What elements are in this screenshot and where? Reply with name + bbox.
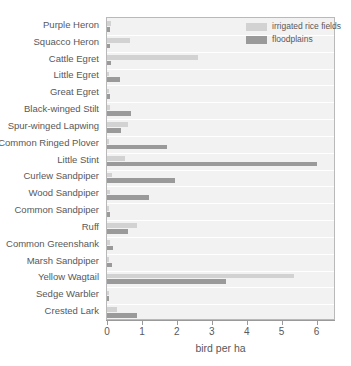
bar-irrigated-rice-fields-curlew-sandpiper: [107, 173, 112, 178]
legend-swatch-icon: [246, 36, 267, 44]
y-axis-label: Great Egret: [50, 87, 99, 97]
x-axis-tick: [212, 320, 213, 325]
bar-floodplains-great-egret: [107, 94, 110, 99]
bar-irrigated-rice-fields-purple-heron: [107, 21, 111, 26]
bar-irrigated-rice-fields-common-greenshank: [107, 240, 110, 245]
legend-label: irrigated rice fields: [272, 21, 341, 32]
x-axis-tick: [107, 320, 108, 325]
y-axis-label: Marsh Sandpiper: [27, 256, 99, 266]
x-axis-line: [106, 320, 335, 321]
bar-irrigated-rice-fields-yellow-wagtail: [107, 274, 294, 279]
x-axis-tick: [317, 320, 318, 325]
bar-floodplains-yellow-wagtail: [107, 279, 226, 284]
bar-irrigated-rice-fields-little-stint: [107, 156, 125, 161]
y-axis-label: Ruff: [82, 222, 99, 232]
plot-area: [106, 17, 335, 320]
x-axis-tick-label: 3: [209, 326, 215, 337]
bar-floodplains-marsh-sandpiper: [107, 263, 112, 268]
bar-irrigated-rice-fields-little-egret: [107, 72, 109, 77]
bar-irrigated-rice-fields-spur-winged-lapwing: [107, 122, 128, 127]
y-axis-label: Cattle Egret: [49, 54, 99, 64]
legend: irrigated rice fields floodplains: [246, 21, 341, 47]
y-axis-label: Purple Heron: [43, 20, 99, 30]
y-axis-label: Sedge Warbler: [36, 289, 99, 299]
bar-irrigated-rice-fields-cattle-egret: [107, 55, 198, 60]
bird-density-bar-chart: Purple HeronSquacco HeronCattle EgretLit…: [0, 0, 351, 366]
bar-floodplains-purple-heron: [107, 27, 110, 32]
y-axis-label: Crested Lark: [45, 306, 99, 316]
bar-irrigated-rice-fields-sedge-warbler: [107, 291, 109, 296]
bar-irrigated-rice-fields-squacco-heron: [107, 38, 130, 43]
y-axis-label: Little Egret: [54, 70, 99, 80]
legend-label: floodplains: [272, 34, 313, 45]
bar-floodplains-common-ringed-plover: [107, 145, 167, 150]
legend-item-floodplains: floodplains: [246, 34, 341, 45]
bar-floodplains-squacco-heron: [107, 44, 110, 49]
legend-item-irrigated-rice-fields: irrigated rice fields: [246, 21, 341, 32]
x-axis-tick: [247, 320, 248, 325]
bar-floodplains-black-winged-stilt: [107, 111, 131, 116]
bar-irrigated-rice-fields-wood-sandpiper: [107, 190, 110, 195]
bar-floodplains-wood-sandpiper: [107, 195, 149, 200]
bars-layer: [107, 18, 334, 319]
x-axis-tick-label: 5: [279, 326, 285, 337]
bar-floodplains-spur-winged-lapwing: [107, 128, 121, 133]
x-axis-tick-label: 0: [104, 326, 110, 337]
bar-irrigated-rice-fields-common-sandpiper: [107, 206, 109, 211]
y-axis-category-labels: Purple HeronSquacco HeronCattle EgretLit…: [0, 17, 103, 320]
bar-floodplains-curlew-sandpiper: [107, 178, 175, 183]
bar-floodplains-ruff: [107, 229, 128, 234]
x-axis-tick: [177, 320, 178, 325]
x-axis-tick-label: 6: [314, 326, 320, 337]
bar-floodplains-common-greenshank: [107, 246, 113, 251]
y-axis-label: Wood Sandpiper: [28, 188, 99, 198]
y-axis-label: Curlew Sandpiper: [23, 171, 99, 181]
y-axis-label: Spur-winged Lapwing: [8, 121, 99, 131]
x-axis-tick-label: 2: [174, 326, 180, 337]
legend-swatch-icon: [246, 23, 267, 31]
bar-floodplains-sedge-warbler: [107, 296, 109, 301]
y-axis-label: Little Stint: [57, 155, 99, 165]
y-axis-label: Common Sandpiper: [15, 205, 100, 215]
bar-floodplains-crested-lark: [107, 313, 137, 318]
bar-irrigated-rice-fields-marsh-sandpiper: [107, 257, 109, 262]
bar-irrigated-rice-fields-common-ringed-plover: [107, 139, 109, 144]
bar-irrigated-rice-fields-ruff: [107, 223, 137, 228]
bar-floodplains-little-egret: [107, 77, 120, 82]
y-axis-label: Squacco Heron: [34, 37, 99, 47]
bar-irrigated-rice-fields-black-winged-stilt: [107, 105, 110, 110]
x-axis-tick: [142, 320, 143, 325]
bar-irrigated-rice-fields-great-egret: [107, 89, 109, 94]
y-axis-label: Yellow Wagtail: [38, 272, 99, 282]
y-axis-label: Common Ringed Plover: [0, 138, 99, 148]
x-axis-title: bird per ha: [106, 342, 335, 354]
x-axis-tick: [282, 320, 283, 325]
bar-floodplains-cattle-egret: [107, 61, 111, 66]
y-axis-label: Common Greenshank: [6, 239, 99, 249]
y-axis-label: Black-winged Stilt: [24, 104, 99, 114]
x-axis-tick-label: 1: [139, 326, 145, 337]
bar-floodplains-little-stint: [107, 162, 317, 167]
x-axis-tick-label: 4: [244, 326, 250, 337]
bar-floodplains-common-sandpiper: [107, 212, 110, 217]
bar-irrigated-rice-fields-crested-lark: [107, 307, 117, 312]
